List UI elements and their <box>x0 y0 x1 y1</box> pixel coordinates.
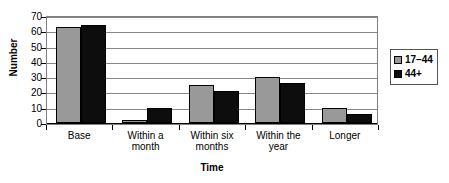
bar <box>189 85 214 123</box>
y-axis-tick-label: 50 <box>16 43 42 53</box>
bar-group <box>313 16 378 123</box>
x-axis-category-label: Within six months <box>179 130 245 152</box>
bar <box>214 91 239 123</box>
y-axis-tick-label: 0 <box>16 119 42 129</box>
bar <box>56 27 81 123</box>
plot-area <box>46 16 378 125</box>
legend-item-17-44: 17–44 <box>394 53 433 67</box>
legend-item-44-plus: 44+ <box>394 67 433 81</box>
bar <box>280 83 305 123</box>
x-axis-category-labels: BaseWithin a monthWithin six monthsWithi… <box>46 130 378 160</box>
y-axis-tick-labels: 706050403020100 <box>16 16 42 125</box>
x-axis-category-label: Longer <box>312 130 378 141</box>
x-axis-category-label: Within a month <box>112 130 178 152</box>
y-axis-tick-label: 70 <box>16 12 42 22</box>
bar-group <box>47 16 113 123</box>
bar-chart: Number 706050403020100 BaseWithin a mont… <box>0 0 449 183</box>
bar-group <box>246 16 312 123</box>
x-axis-title: Time <box>46 162 378 173</box>
bar <box>81 25 106 123</box>
bar-group <box>113 16 179 123</box>
bar <box>347 114 372 123</box>
bar <box>322 108 347 123</box>
legend-label-17-44: 17–44 <box>405 55 433 65</box>
bar-group <box>180 16 246 123</box>
legend-swatch-gray-icon <box>394 56 402 64</box>
legend-swatch-black-icon <box>394 70 402 78</box>
y-axis-tick-label: 40 <box>16 58 42 68</box>
x-axis-tick-mark <box>378 125 379 130</box>
y-axis-tick-label: 30 <box>16 73 42 83</box>
legend-label-44-plus: 44+ <box>405 69 422 79</box>
y-axis-tick-label: 10 <box>16 104 42 114</box>
bar <box>255 77 280 123</box>
x-axis-category-label: Within the year <box>245 130 311 152</box>
bar <box>147 108 172 123</box>
x-axis-category-label: Base <box>46 130 112 141</box>
x-axis-baseline <box>47 123 377 124</box>
y-axis-tick-label: 60 <box>16 27 42 37</box>
y-axis-tick-label: 20 <box>16 88 42 98</box>
chart-legend: 17–44 44+ <box>390 49 438 85</box>
